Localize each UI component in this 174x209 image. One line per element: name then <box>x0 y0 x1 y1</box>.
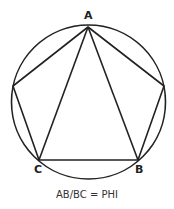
ratio-caption: AB/BC = PHI <box>0 190 174 200</box>
circumscribed-circle <box>12 25 166 179</box>
pentagon-circle-diagram <box>0 0 174 209</box>
vertex-label-C: C <box>34 164 42 175</box>
vertex-label-A: A <box>84 10 93 21</box>
vertex-label-B: B <box>135 164 143 175</box>
